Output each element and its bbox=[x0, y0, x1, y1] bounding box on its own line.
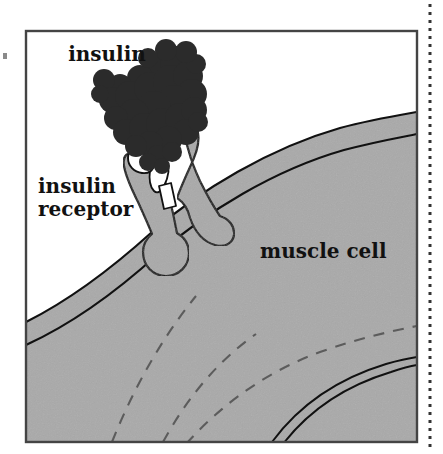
page-speck bbox=[3, 53, 7, 59]
diagram-canvas: insulin insulin receptor muscle cell bbox=[0, 0, 443, 454]
label-insulin-receptor-line2: receptor bbox=[38, 197, 134, 221]
label-insulin-receptor-line1: insulin bbox=[38, 174, 116, 198]
figure-contents: insulin insulin receptor muscle cell bbox=[26, 31, 417, 444]
label-insulin: insulin bbox=[68, 42, 146, 66]
label-muscle-cell: muscle cell bbox=[260, 239, 387, 263]
insulin-receptor-figure: insulin insulin receptor muscle cell bbox=[0, 0, 443, 454]
